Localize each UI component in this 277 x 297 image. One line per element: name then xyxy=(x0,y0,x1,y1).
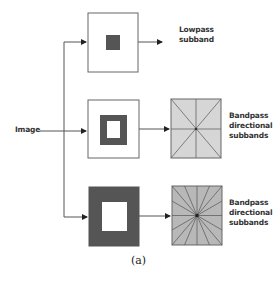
directional-grid-16 xyxy=(172,186,222,245)
figure-caption: (a) xyxy=(131,254,146,267)
filter-bank-diagram xyxy=(0,0,277,297)
bandpass-label-1: Bandpass directional subbands xyxy=(229,111,272,141)
input-label: Image xyxy=(15,125,40,135)
directional-grid-8 xyxy=(171,99,221,158)
lowpass-square xyxy=(106,35,120,50)
bandpass-label-2: Bandpass directional subbands xyxy=(229,198,272,228)
lowpass-label: Lowpass subband xyxy=(179,25,214,45)
